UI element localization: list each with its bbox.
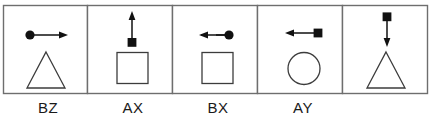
panel-label-4: AY (273, 98, 333, 118)
panel-frame-1 (4, 6, 88, 94)
panel-label-2: AX (103, 98, 163, 118)
panel-label-3: BX (188, 98, 248, 118)
panel-label-1: BZ (18, 98, 78, 118)
panel-strip (0, 0, 438, 100)
panel-frame-4 (258, 6, 343, 94)
panel-frames (4, 6, 428, 94)
arrow-square-tail-icon (128, 38, 137, 47)
arrow-circle-tail-icon (25, 30, 34, 39)
panel-label-row: BZ AX BX AY (0, 98, 438, 130)
panel-frame-3 (173, 6, 258, 94)
arrow-square-tail-icon (314, 29, 323, 38)
figure-root: BZ AX BX AY (0, 0, 438, 130)
arrow-square-tail-icon (383, 12, 392, 21)
panel-strip-graphic (0, 0, 438, 100)
